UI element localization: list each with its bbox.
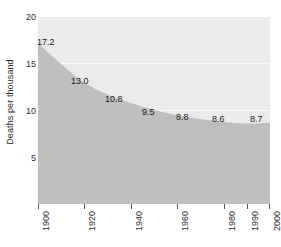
data-label-1920: 13.0 (71, 77, 89, 86)
x-tick-label-1990: 1990 (251, 211, 260, 231)
x-tick-mark-1960 (177, 204, 178, 209)
x-tick-label-1960: 1960 (181, 211, 190, 231)
data-label-1990: 8.6 (212, 115, 225, 124)
x-tick-label-1940: 1940 (135, 211, 144, 231)
x-tick-mark-1900 (38, 204, 39, 209)
data-label-1960: 9.5 (142, 108, 155, 117)
y-axis-ticks: 20 15 10 5 (16, 0, 36, 204)
y-tick-label-15: 15 (18, 60, 36, 69)
y-axis-title-text: Deaths per thousand (5, 59, 15, 144)
data-label-1900: 17.2 (37, 38, 55, 47)
x-tick-mark-1940 (131, 204, 132, 209)
data-label-1980: 8.8 (176, 113, 189, 122)
x-axis: 1900 1920 1940 1960 1980 1990 2000 (38, 204, 270, 247)
y-tick-label-5: 5 (18, 154, 36, 163)
x-tick-mark-1990 (247, 204, 248, 209)
x-tick-label-1900: 1900 (42, 211, 51, 231)
x-tick-mark-2000 (269, 204, 270, 209)
y-tick-label-20: 20 (18, 13, 36, 22)
area-chart: Deaths per thousand 20 15 10 5 17.2 13.0… (0, 0, 281, 247)
data-label-2000: 8.7 (250, 115, 263, 124)
x-tick-label-1920: 1920 (88, 211, 97, 231)
x-tick-label-1980: 1980 (228, 211, 237, 231)
data-label-1940: 10.8 (105, 95, 123, 104)
x-tick-label-2000: 2000 (273, 211, 281, 231)
x-tick-mark-1980 (224, 204, 225, 209)
y-tick-label-10: 10 (18, 107, 36, 116)
x-tick-mark-1920 (84, 204, 85, 209)
